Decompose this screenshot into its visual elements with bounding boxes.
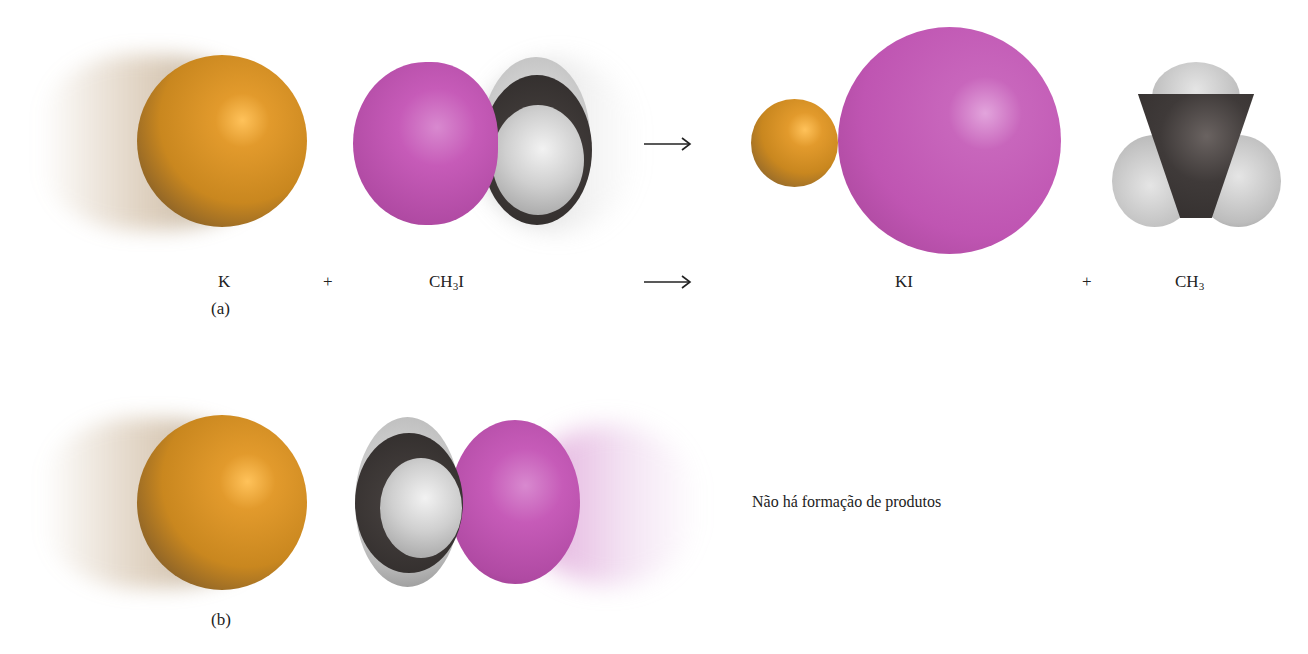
panel-a-tag: (a) <box>211 299 230 319</box>
no-products-text: Não há formação de produtos <box>752 492 941 512</box>
potassium-atom <box>137 55 307 227</box>
iodine-atom-b <box>450 420 580 584</box>
potassium-ion <box>751 99 838 187</box>
iodide-ion <box>838 27 1061 254</box>
plus-sign-2: + <box>1082 272 1092 292</box>
product-ki-label: KI <box>895 272 913 292</box>
plus-sign-1: + <box>323 272 333 292</box>
iodine-atom <box>353 62 498 225</box>
reactant-k-label: K <box>218 272 230 292</box>
reactant-ch3i-label: CH3I <box>429 272 464 292</box>
potassium-atom-b <box>137 415 307 590</box>
hydrogen-atom-front <box>492 105 584 215</box>
hydrogen-atom-front-b <box>380 458 462 558</box>
equation-arrow-icon <box>643 274 693 290</box>
product-ch3-label: CH3 <box>1175 272 1204 292</box>
reaction-arrow-icon <box>643 136 693 152</box>
panel-b-tag: (b) <box>211 610 231 630</box>
